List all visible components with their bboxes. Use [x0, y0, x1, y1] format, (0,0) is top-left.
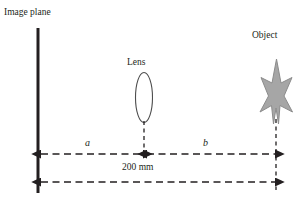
lens-label: Lens	[127, 58, 145, 68]
lens-ellipse	[136, 73, 153, 123]
image-plane-label: Image plane	[4, 8, 51, 18]
object-label: Object	[252, 31, 277, 41]
total-distance-label: 200 mm	[122, 163, 153, 173]
lens-diagram-figure: Image plane Object Lens a b 200 mm	[0, 0, 303, 202]
object-star-shape	[260, 59, 293, 124]
distance-a-label: a	[85, 138, 90, 148]
distance-b-label: b	[203, 138, 208, 148]
